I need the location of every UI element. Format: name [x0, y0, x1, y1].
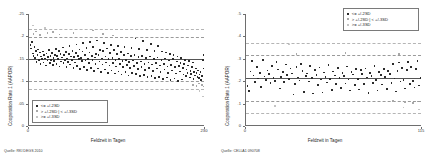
data-point [72, 50, 74, 52]
data-point [387, 70, 389, 72]
data-point [339, 77, 341, 79]
legend-label: <= +/-2SD [352, 11, 371, 16]
data-point [314, 69, 316, 71]
y-tick-mark [243, 59, 245, 60]
data-point [190, 70, 192, 72]
data-point [365, 68, 367, 70]
data-point [386, 88, 388, 90]
data-point [368, 92, 370, 94]
data-point [114, 73, 116, 75]
data-point [87, 58, 89, 60]
data-point [371, 75, 373, 77]
data-point [401, 67, 403, 69]
data-point [61, 57, 63, 59]
data-point [148, 62, 150, 64]
data-point [175, 73, 177, 75]
data-point [173, 54, 175, 56]
data-point [187, 65, 189, 67]
data-point [398, 62, 400, 64]
data-point [288, 78, 290, 80]
data-point [159, 65, 161, 67]
data-point [196, 72, 198, 74]
data-point [164, 58, 166, 60]
data-point [99, 61, 101, 63]
data-point [325, 76, 327, 78]
data-point [135, 73, 137, 75]
data-point [254, 81, 256, 83]
data-point [412, 102, 414, 104]
data-point [268, 73, 270, 75]
data-point [248, 90, 250, 92]
data-point [154, 77, 156, 79]
data-point [77, 55, 79, 57]
data-point [322, 92, 324, 94]
data-point [406, 69, 408, 71]
legend-marker-icon [347, 13, 349, 15]
data-point [345, 83, 347, 85]
data-point [36, 61, 38, 63]
data-point [112, 35, 114, 37]
data-point [320, 79, 322, 81]
data-point [144, 69, 146, 71]
data-point [309, 65, 311, 67]
data-point [400, 81, 402, 83]
data-point [312, 93, 314, 95]
x-tick-label: 115 [418, 129, 425, 134]
data-point [112, 57, 114, 59]
data-point [328, 64, 330, 66]
data-point [147, 76, 149, 78]
y-tick-label: .15 [0, 57, 24, 62]
legend-marker-icon [347, 18, 349, 20]
data-point [89, 41, 91, 43]
x-tick-mark [28, 127, 29, 129]
data-point [128, 75, 130, 77]
data-point [369, 72, 371, 74]
data-point [56, 55, 58, 57]
data-point [415, 68, 417, 70]
data-point [106, 48, 108, 50]
data-point [92, 30, 94, 32]
data-point [279, 88, 281, 90]
data-point [286, 74, 288, 76]
data-point [37, 54, 39, 56]
legend-marker-icon [36, 105, 38, 107]
data-point [283, 81, 285, 83]
data-point [198, 83, 200, 85]
data-point [169, 53, 171, 55]
y-tick-mark [243, 14, 245, 15]
legend-label: >= +/-3SD [352, 22, 371, 27]
data-point [375, 79, 377, 81]
y-tick-mark [26, 81, 28, 82]
data-point [99, 49, 101, 51]
data-point [138, 48, 140, 50]
data-point [201, 75, 203, 77]
data-point [306, 73, 308, 75]
data-point [105, 56, 107, 58]
data-point [276, 61, 278, 63]
data-point [166, 77, 168, 79]
data-point [372, 82, 374, 84]
data-point [118, 58, 120, 60]
data-point [128, 61, 130, 63]
data-point [120, 51, 122, 53]
data-point [349, 90, 351, 92]
data-point [384, 76, 386, 78]
data-point [52, 31, 54, 33]
data-point [98, 54, 100, 56]
data-point [303, 91, 305, 93]
data-point [348, 79, 350, 81]
source-note-left: Quelle: RKI DEGS 2010 [4, 149, 43, 153]
data-point [257, 78, 259, 80]
data-point [260, 86, 262, 88]
data-point [50, 55, 52, 57]
data-point [191, 66, 193, 68]
reference-line-lower_2sd [246, 101, 421, 102]
data-point [410, 66, 412, 68]
data-point [199, 90, 201, 92]
data-point [174, 78, 176, 80]
data-point [296, 66, 298, 68]
data-point [140, 61, 142, 63]
legend-label: > +/-2SD | < +/-3SD [41, 109, 77, 114]
data-point [34, 57, 36, 59]
data-point [117, 45, 119, 47]
